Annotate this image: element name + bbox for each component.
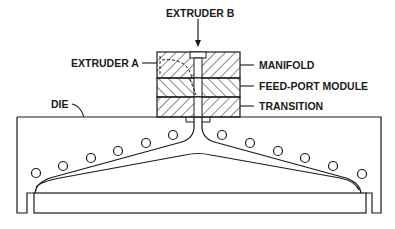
manifold-block <box>157 52 240 78</box>
flow-channel <box>35 117 361 193</box>
die-label: DIE <box>51 98 69 110</box>
extruder-a-label: EXTRUDER A <box>71 57 139 69</box>
transition-block <box>157 97 240 117</box>
heater-holes <box>32 131 367 179</box>
feed-port-block <box>157 78 240 97</box>
die-diagram <box>0 0 395 229</box>
feed-port-module-label: FEED-PORT MODULE <box>259 80 368 92</box>
transition-label: TRANSITION <box>259 100 323 112</box>
manifold-label: MANIFOLD <box>259 59 314 71</box>
extruder-b-label: EXTRUDER B <box>166 7 234 19</box>
die-body <box>17 117 381 213</box>
extruder-b-arrow <box>195 19 201 47</box>
